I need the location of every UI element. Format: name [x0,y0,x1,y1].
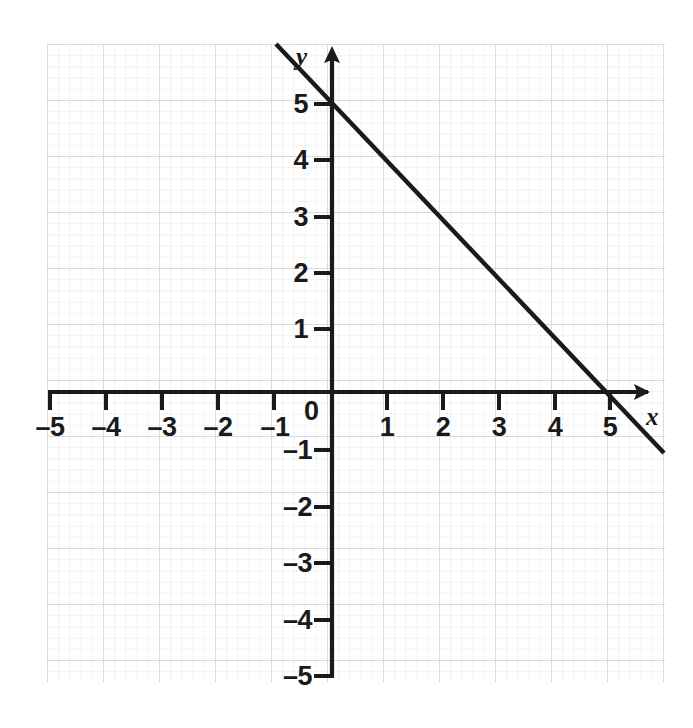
x-tick-label-3: 3 [492,414,507,441]
y-tick-label-neg1: –1 [283,437,312,464]
x-tick-label-neg5: –5 [35,414,64,441]
x-tick-label-5: 5 [603,414,618,441]
x-axis-label: x [646,404,659,429]
x-tick-label-neg3: –3 [147,414,176,441]
y-tick-label-neg2: –2 [283,494,312,521]
y-tick-label-3: 3 [293,204,308,231]
y-tick-label-4: 4 [293,147,308,174]
y-tick-label-neg4: –4 [283,607,312,634]
coordinate-graph: –5 –4 –3 –2 –1 1 2 3 4 5 0 5 4 3 2 1 –1 … [0,0,693,728]
x-tick-label-2: 2 [436,414,451,441]
x-tick-label-4: 4 [548,414,563,441]
y-tick-label-2: 2 [293,260,308,287]
y-axis-label: y [296,44,307,69]
graph-canvas [0,0,693,728]
x-tick-label-neg2: –2 [203,414,232,441]
y-tick-label-neg5: –5 [283,663,312,690]
y-tick-label-1: 1 [293,316,308,343]
y-tick-label-5: 5 [293,91,308,118]
grid-major [47,44,665,682]
origin-label: 0 [304,398,319,425]
x-tick-label-neg4: –4 [91,414,120,441]
y-tick-label-neg3: –3 [283,550,312,577]
x-tick-label-1: 1 [380,414,395,441]
